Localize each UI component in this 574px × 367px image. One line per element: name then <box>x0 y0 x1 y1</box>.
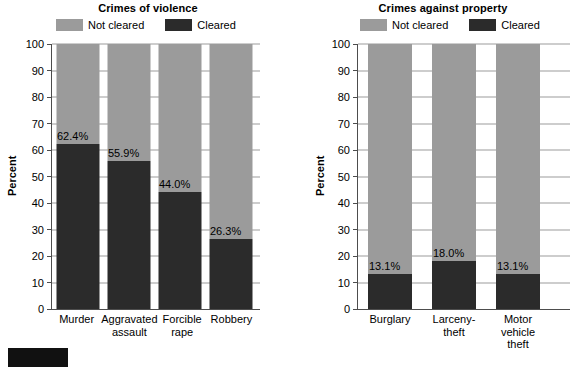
stacked-bar[interactable]: 26.3% <box>209 44 252 309</box>
y-tick: 100 <box>332 38 358 50</box>
bar-segment-not-cleared[interactable] <box>432 44 476 261</box>
y-tick-label: 0 <box>38 303 47 315</box>
legend-item-cleared: Cleared <box>469 19 540 31</box>
y-tick: 60 <box>338 144 358 156</box>
stacked-bar[interactable]: 62.4% <box>56 44 99 309</box>
chart-legend: Not cleared Cleared <box>56 19 236 31</box>
legend-swatch-cleared-icon <box>469 19 496 31</box>
y-tick-label: 30 <box>338 224 353 236</box>
x-axis-line <box>51 309 260 310</box>
y-tick-label: 40 <box>338 197 353 209</box>
stacked-bar[interactable]: 55.9% <box>107 44 150 309</box>
bar-segment-not-cleared[interactable] <box>107 44 150 161</box>
y-tick-label: 0 <box>344 303 353 315</box>
y-tick: 80 <box>32 91 52 103</box>
y-tick-label: 70 <box>338 118 353 130</box>
y-tick-label: 80 <box>338 91 353 103</box>
bar-segment-cleared[interactable]: 13.1% <box>368 274 412 309</box>
x-axis-label: Motor vehicle theft <box>486 313 550 351</box>
legend-swatch-not-cleared-icon <box>360 19 387 31</box>
legend-label-not-cleared: Not cleared <box>88 19 144 31</box>
stacked-bar[interactable]: 44.0% <box>158 44 201 309</box>
x-axis-line <box>357 309 570 310</box>
y-tick-label: 10 <box>338 277 353 289</box>
y-tick-label: 100 <box>26 38 47 50</box>
x-axis-label: Burglary <box>358 313 422 351</box>
chart-legend: Not cleared Cleared <box>360 19 540 31</box>
stacked-bar[interactable]: 13.1% <box>368 44 412 309</box>
y-tick: 60 <box>32 144 52 156</box>
bar-slot: 62.4% <box>52 44 103 309</box>
bar-segment-not-cleared[interactable] <box>158 44 201 192</box>
y-axis-title: Percent <box>314 156 326 196</box>
bar-segment-cleared[interactable]: 26.3% <box>209 239 252 309</box>
bar-value-label: 55.9% <box>108 147 139 159</box>
stacked-bar[interactable]: 13.1% <box>496 44 540 309</box>
stacked-bar[interactable]: 18.0% <box>432 44 476 309</box>
y-tick-label: 60 <box>338 144 353 156</box>
plot-area: 1009080706050403020100 62.4%55.9%44.0%26… <box>52 44 256 309</box>
bar-slot: 13.1% <box>358 44 422 309</box>
bar-group: 13.1%18.0%13.1% <box>358 44 550 309</box>
bar-value-label: 62.4% <box>57 130 88 142</box>
chart-panel-crimes-against-property: Crimes against property Not cleared Clea… <box>300 0 574 367</box>
y-tick: 20 <box>32 250 52 262</box>
bar-segment-cleared[interactable]: 18.0% <box>432 261 476 309</box>
x-axis-label: Robbery <box>207 313 256 338</box>
bar-segment-not-cleared[interactable] <box>368 44 412 274</box>
y-tick: 10 <box>338 277 358 289</box>
y-tick: 0 <box>38 303 52 315</box>
bar-slot: 26.3% <box>205 44 256 309</box>
y-tick-label: 90 <box>32 65 47 77</box>
bar-slot: 44.0% <box>154 44 205 309</box>
legend-item-not-cleared: Not cleared <box>360 19 448 31</box>
y-tick: 50 <box>338 171 358 183</box>
bar-value-label: 13.1% <box>369 260 400 272</box>
y-tick-label: 60 <box>32 144 47 156</box>
y-tick-label: 100 <box>332 38 353 50</box>
y-tick: 10 <box>32 277 52 289</box>
y-tick-label: 20 <box>338 250 353 262</box>
bar-slot: 18.0% <box>422 44 486 309</box>
legend-label-cleared: Cleared <box>197 19 236 31</box>
y-tick-label: 50 <box>32 171 47 183</box>
legend-swatch-cleared-icon <box>165 19 192 31</box>
bar-group: 62.4%55.9%44.0%26.3% <box>52 44 256 309</box>
y-tick-label: 90 <box>338 65 353 77</box>
y-tick: 30 <box>32 224 52 236</box>
legend-item-not-cleared: Not cleared <box>56 19 144 31</box>
y-tick-label: 20 <box>32 250 47 262</box>
legend-item-cleared: Cleared <box>165 19 236 31</box>
y-tick-label: 70 <box>32 118 47 130</box>
bar-segment-cleared[interactable]: 62.4% <box>56 144 99 309</box>
bar-segment-not-cleared[interactable] <box>209 44 252 239</box>
x-axis-label: Aggravated assault <box>101 313 157 338</box>
x-axis-label: Forcible rape <box>158 313 207 338</box>
y-tick: 90 <box>32 65 52 77</box>
plot-area: 1009080706050403020100 13.1%18.0%13.1% <box>358 44 550 309</box>
y-tick-label: 50 <box>338 171 353 183</box>
bar-slot: 55.9% <box>103 44 154 309</box>
footer-black-bar <box>8 348 68 367</box>
y-tick: 70 <box>32 118 52 130</box>
bar-segment-cleared[interactable]: 13.1% <box>496 274 540 309</box>
y-tick: 80 <box>338 91 358 103</box>
legend-swatch-not-cleared-icon <box>56 19 83 31</box>
bar-slot: 13.1% <box>486 44 550 309</box>
bar-segment-cleared[interactable]: 55.9% <box>107 161 150 309</box>
y-tick: 0 <box>344 303 358 315</box>
y-tick: 50 <box>32 171 52 183</box>
y-tick-label: 40 <box>32 197 47 209</box>
y-tick: 70 <box>338 118 358 130</box>
bar-segment-cleared[interactable]: 44.0% <box>158 192 201 309</box>
x-axis-label: Larceny-theft <box>422 313 486 351</box>
y-tick: 30 <box>338 224 358 236</box>
chart-panel-crimes-of-violence: Crimes of violence Not cleared Cleared P… <box>0 0 300 367</box>
y-tick: 100 <box>26 38 52 50</box>
bar-segment-not-cleared[interactable] <box>496 44 540 274</box>
x-axis-labels: BurglaryLarceny-theftMotor vehicle theft <box>358 313 550 351</box>
y-tick: 40 <box>338 197 358 209</box>
chart-title: Crimes against property <box>306 2 574 14</box>
x-axis-labels: MurderAggravated assaultForcible rapeRob… <box>52 313 256 338</box>
x-axis-label: Murder <box>52 313 101 338</box>
